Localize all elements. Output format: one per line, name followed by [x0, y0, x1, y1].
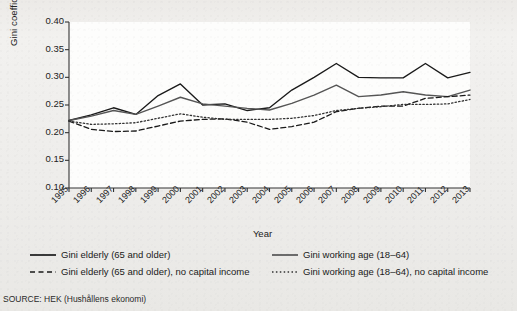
legend-item-gini-working-age-no-capital: Gini working age (18–64), no capital inc… [272, 266, 488, 277]
legend-label: Gini elderly (65 and older) [61, 249, 170, 260]
legend-swatch-icon [272, 250, 298, 260]
legend-item-gini-working-age: Gini working age (18–64) [272, 249, 409, 260]
legend-label: Gini working age (18–64), no capital inc… [303, 266, 488, 277]
chart-legend: Gini elderly (65 and older)Gini working … [0, 249, 517, 287]
legend-swatch-icon [272, 267, 298, 277]
series-line-0 [69, 64, 470, 121]
source-note: SOURCE: HEK (Hushållens ekonomi) [3, 294, 146, 304]
legend-swatch-icon [30, 267, 56, 277]
x-axis-title: Year [0, 228, 517, 239]
legend-swatch-icon [30, 250, 56, 260]
legend-item-gini-elderly: Gini elderly (65 and older) [30, 249, 170, 260]
legend-label: Gini working age (18–64) [303, 249, 409, 260]
series-line-1 [69, 85, 470, 120]
legend-label: Gini elderly (65 and older), no capital … [61, 266, 250, 277]
legend-item-gini-elderly-no-capital: Gini elderly (65 and older), no capital … [30, 266, 250, 277]
figure-gini-coefficient-chart: Gini coefficient 0.100.150.200.250.300.3… [0, 0, 517, 311]
